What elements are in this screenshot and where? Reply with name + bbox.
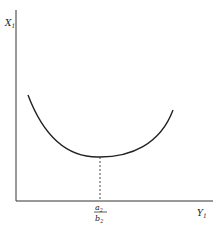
fraction-numerator: a2 [95,203,103,213]
x-axis-label: Y1 [197,208,207,219]
fraction-denominator: b2 [95,214,103,224]
diagram: X1 Y1 a2 b2 [0,0,216,227]
y-axis-label: X1 [4,18,15,29]
minimum-fraction-label: a2 b2 [94,203,107,224]
u-curve [28,95,173,157]
